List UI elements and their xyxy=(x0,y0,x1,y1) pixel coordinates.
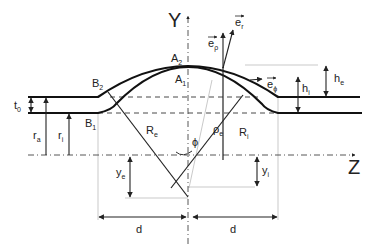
dimension-arrows xyxy=(31,66,326,217)
label-ye: ye xyxy=(116,166,126,180)
label-d-right: d xyxy=(230,223,236,235)
vector-e-r: er xyxy=(235,16,244,30)
svg-text:er: er xyxy=(235,16,244,30)
vector-e-rho: eρ xyxy=(208,37,218,52)
label-d-left: d xyxy=(136,223,142,235)
reference-lines xyxy=(98,65,318,220)
diagram-svg: Y Z A2 A1 B2 B1 er eρ eϕ t0 ra ri Re Ri … xyxy=(0,0,378,244)
label-A2: A2 xyxy=(171,52,182,66)
diagram-canvas: Y Z A2 A1 B2 B1 er eρ eϕ t0 ra ri Re Ri … xyxy=(0,0,378,244)
label-hi: hi xyxy=(302,82,310,96)
label-yi: yi xyxy=(262,164,270,178)
label-ri: ri xyxy=(58,129,64,143)
label-Ri: Ri xyxy=(239,126,249,140)
y-axis-label: Y xyxy=(168,9,181,31)
z-axis-label: Z xyxy=(348,156,360,178)
label-rho-e: ρe xyxy=(213,123,223,137)
phi-arc xyxy=(176,151,192,155)
label-B2: B2 xyxy=(92,77,103,91)
label-B1: B1 xyxy=(85,117,96,131)
label-Re: Re xyxy=(146,124,158,138)
label-t0: t0 xyxy=(14,99,21,113)
label-phi: ϕ xyxy=(192,136,198,148)
label-he: he xyxy=(334,72,344,86)
svg-text:eρ: eρ xyxy=(208,37,218,52)
tube-walls xyxy=(28,66,362,113)
label-ra: ra xyxy=(33,129,41,143)
label-A1: A1 xyxy=(175,73,186,87)
